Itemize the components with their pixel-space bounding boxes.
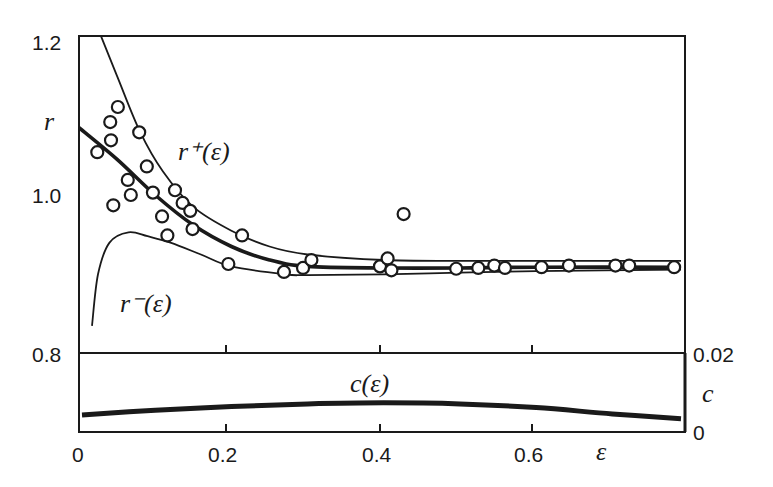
data-point (147, 187, 159, 199)
data-point (112, 101, 124, 113)
ytick-1.0: 1.0 (32, 184, 61, 207)
xtick-0.4: 0.4 (362, 443, 392, 466)
data-point (184, 205, 196, 217)
data-point (609, 260, 621, 272)
chart: 1.2 1.0 0.8 0 0.2 0.4 0.6 0.02 0 r c ε r… (0, 0, 773, 487)
xtick-0.2: 0.2 (208, 443, 237, 466)
ctick-0: 0 (693, 421, 705, 444)
annotation-r-plus: r⁺(ε) (178, 137, 230, 166)
data-point (623, 260, 635, 272)
data-point (385, 264, 397, 276)
data-point (122, 174, 134, 186)
data-point (278, 266, 290, 278)
xtick-0.6: 0.6 (514, 443, 543, 466)
data-point (156, 210, 168, 222)
ctick-0.02: 0.02 (693, 343, 734, 366)
x-axis-label-epsilon: ε (596, 437, 607, 466)
data-point (161, 229, 173, 241)
xtick-0: 0 (72, 443, 84, 466)
data-points (91, 101, 680, 278)
data-point (536, 261, 548, 273)
data-point (236, 229, 248, 241)
data-point (105, 134, 117, 146)
data-point (499, 262, 511, 274)
data-point (668, 261, 680, 273)
ytick-0.8: 0.8 (32, 343, 61, 366)
data-point (398, 208, 410, 220)
data-point (125, 189, 137, 201)
data-point (107, 199, 119, 211)
data-point (563, 260, 575, 272)
data-point (305, 254, 317, 266)
y-axis-label-r: r (44, 107, 55, 136)
r-fit-curve (79, 128, 681, 269)
c-curve (82, 403, 681, 419)
data-point (104, 116, 116, 128)
data-point (169, 184, 181, 196)
ytick-1.2: 1.2 (32, 31, 61, 54)
data-point (187, 223, 199, 235)
data-point (472, 262, 484, 274)
r-minus-curve (92, 232, 681, 326)
data-point (382, 252, 394, 264)
data-point (222, 258, 234, 270)
annotation-c: c(ε) (350, 369, 389, 398)
data-point (141, 160, 153, 172)
y-axis-label-c: c (702, 379, 714, 408)
data-point (450, 263, 462, 275)
data-point (91, 146, 103, 158)
data-point (133, 126, 145, 138)
annotation-r-minus: r⁻(ε) (120, 289, 172, 318)
curves (79, 36, 681, 418)
